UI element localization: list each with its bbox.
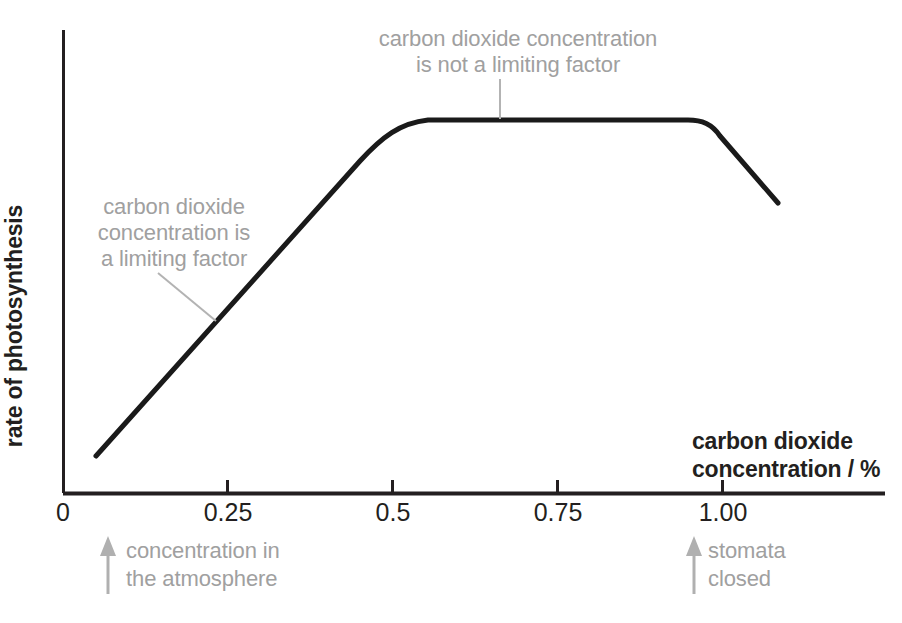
leader-line-limiting-factor — [158, 273, 216, 321]
atmosphere-marker-arrow-icon — [100, 536, 116, 594]
chart-canvas — [0, 0, 902, 623]
annotation-limiting-factor-line3: a limiting factor — [101, 246, 247, 272]
x-tick-label-05: 0.5 — [376, 498, 411, 528]
stomata-marker-arrow-icon — [686, 536, 702, 594]
y-axis-title: rate of photosynthesis — [1, 205, 28, 447]
x-tick-label-025: 0.25 — [204, 498, 253, 528]
x-tick-label-075: 0.75 — [534, 498, 583, 528]
x-axis-title-line2: concentration / % — [692, 456, 880, 483]
photosynthesis-rate-curve — [96, 120, 778, 456]
annotation-not-limiting-factor-line2: is not a limiting factor — [416, 52, 620, 78]
annotation-stomata-line2: closed — [708, 566, 771, 592]
x-axis-title-line1: carbon dioxide — [692, 428, 853, 455]
annotation-atmosphere-line1: concentration in — [126, 538, 280, 564]
annotation-atmosphere-line2: the atmosphere — [126, 566, 277, 592]
x-axis-ticks — [64, 480, 723, 493]
annotation-limiting-factor-line2: concentration is — [98, 220, 251, 246]
x-tick-label-0: 0 — [56, 498, 70, 528]
x-tick-label-100: 1.00 — [699, 498, 748, 528]
photosynthesis-co2-chart: rate of photosynthesis carbon dioxide co… — [0, 0, 902, 623]
annotation-stomata-line1: stomata — [708, 538, 786, 564]
annotation-not-limiting-factor-line1: carbon dioxide concentration — [379, 26, 658, 52]
annotation-limiting-factor-line1: carbon dioxide — [103, 194, 245, 220]
